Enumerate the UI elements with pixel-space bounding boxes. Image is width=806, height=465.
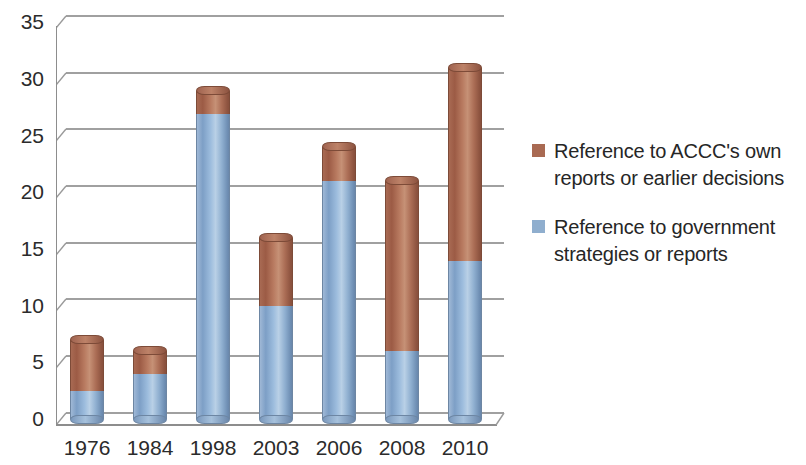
chart-legend: Reference to ACCC's own reports or earli… [532, 138, 804, 290]
y-tick-label: 30 [0, 68, 44, 89]
x-axis-labels: 1976 1984 1998 2003 2006 2008 2010 [40, 436, 530, 464]
y-axis-labels: 35 30 25 20 15 10 5 0 [0, 0, 44, 465]
bar-segment-blue-2008[interactable] [385, 351, 419, 419]
cylinder-top-cap [70, 335, 104, 344]
bar-segment-brown-2003[interactable] [259, 238, 293, 306]
cylinder-bottom-cap [259, 415, 293, 424]
cylinder-top-cap [385, 176, 419, 185]
cylinder-bottom-cap [385, 415, 419, 424]
y-tick-label: 35 [0, 11, 44, 32]
bar-1976[interactable] [70, 340, 104, 419]
bar-segment-blue-1998[interactable] [196, 114, 230, 419]
y-tick-label: 20 [0, 181, 44, 202]
legend-label-government-strategies: Reference to government strategies or re… [554, 214, 804, 268]
legend-item-government-strategies[interactable]: Reference to government strategies or re… [532, 214, 804, 268]
legend-label-accc-reports: Reference to ACCC's own reports or earli… [554, 138, 804, 192]
cylinder-top-cap [133, 346, 167, 355]
x-tick-label-2010: 2010 [432, 436, 498, 460]
bar-segment-brown-2008[interactable] [385, 181, 419, 351]
bar-2006[interactable] [322, 147, 356, 419]
bar-segment-brown-1998[interactable] [196, 91, 230, 114]
bar-2010[interactable] [448, 68, 482, 419]
cylinder-bottom-cap [196, 415, 230, 424]
x-tick-label-1976: 1976 [54, 436, 120, 460]
legend-item-accc-reports[interactable]: Reference to ACCC's own reports or earli… [532, 138, 804, 192]
bar-segment-blue-2010[interactable] [448, 261, 482, 419]
cylinder-bottom-cap [448, 415, 482, 424]
x-tick-label-1998: 1998 [180, 436, 246, 460]
x-tick-label-2008: 2008 [369, 436, 435, 460]
bar-segment-brown-1976[interactable] [70, 340, 104, 391]
bar-1998[interactable] [196, 91, 230, 419]
bar-segment-brown-2010[interactable] [448, 68, 482, 261]
bar-segment-blue-1984[interactable] [133, 374, 167, 419]
y-tick-label: 10 [0, 295, 44, 316]
bar-segment-blue-2003[interactable] [259, 306, 293, 419]
bars-layer [56, 0, 508, 430]
legend-swatch-accc-reports [532, 144, 545, 157]
x-tick-label-2006: 2006 [306, 436, 372, 460]
bar-segment-brown-2006[interactable] [322, 147, 356, 181]
y-tick-label: 0 [0, 408, 44, 429]
cylinder-top-cap [259, 233, 293, 242]
cylinder-top-cap [196, 86, 230, 95]
cylinder-bottom-cap [133, 415, 167, 424]
y-tick-label: 15 [0, 238, 44, 259]
cylinder-bottom-cap [322, 415, 356, 424]
bar-1984[interactable] [133, 351, 167, 419]
bar-2003[interactable] [259, 238, 293, 419]
chart-container: 35 30 25 20 15 10 5 0 [0, 0, 806, 465]
cylinder-top-cap [448, 63, 482, 72]
cylinder-bottom-cap [70, 415, 104, 424]
y-tick-label: 5 [0, 351, 44, 372]
legend-swatch-government-strategies [532, 220, 545, 233]
x-tick-label-2003: 2003 [243, 436, 309, 460]
bar-segment-blue-1976[interactable] [70, 391, 104, 419]
bar-segment-brown-1984[interactable] [133, 351, 167, 374]
y-tick-label: 25 [0, 125, 44, 146]
bar-2008[interactable] [385, 181, 419, 419]
bar-segment-blue-2006[interactable] [322, 181, 356, 419]
x-tick-label-1984: 1984 [117, 436, 183, 460]
cylinder-top-cap [322, 142, 356, 151]
